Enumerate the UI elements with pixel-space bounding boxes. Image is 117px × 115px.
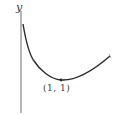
minimum-point-label: (1, 1) xyxy=(43,84,70,93)
minimum-point-marker xyxy=(60,79,63,82)
graph-canvas xyxy=(0,0,117,115)
graph-figure: y (1, 1) xyxy=(0,0,117,115)
y-axis-label: y xyxy=(16,2,22,13)
function-curve xyxy=(23,24,110,80)
